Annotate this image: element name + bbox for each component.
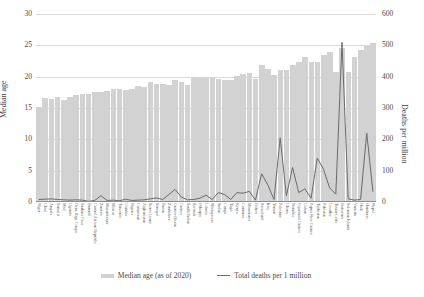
x-axis-label-text: Gabon — [303, 203, 307, 214]
x-axis-label-text: Malawi — [111, 203, 115, 216]
x-axis-label-text: Central African Republic — [93, 203, 97, 244]
x-axis-label-text: Angola — [49, 203, 53, 215]
left-tick-label: 25 — [6, 41, 32, 49]
x-axis-label-text: Congo — [223, 203, 227, 214]
x-axis-label-text: Zambia — [99, 203, 103, 216]
left-tick-label: 10 — [6, 135, 32, 143]
x-axis-label-text: Rwanda — [192, 203, 196, 216]
x-axis-label-text: Dem. Rep. Congo — [74, 203, 78, 233]
right-tick-label: 600 — [382, 10, 412, 18]
left-tick-label: 20 — [6, 73, 32, 81]
x-axis-label-text: Burkina Faso — [80, 203, 84, 225]
right-tick-label: 500 — [382, 41, 412, 49]
x-axis-label-text: Gambia — [124, 203, 128, 216]
x-axis-label-text: Botswana — [340, 203, 344, 219]
x-axis-label-text: Uganda — [68, 203, 72, 216]
legend-item-median-age: Median age (as of 2020) — [101, 271, 191, 280]
right-axis-title: Deaths per million — [400, 104, 409, 164]
legend-label-deaths: Total deaths per 1 million — [234, 271, 311, 280]
x-axis-label-text: Ghana — [285, 203, 289, 214]
x-axis-label-text: Nigeria — [130, 203, 134, 215]
x-axis-label-text: Equatorial Guinea — [297, 203, 301, 233]
x-axis-label-text: Solomon Islands — [346, 203, 350, 230]
right-tick-label: 300 — [382, 104, 412, 112]
x-axis-label-text: Tanzania — [117, 203, 121, 218]
x-axis-label-text: Comoros — [241, 203, 245, 218]
x-axis-label-text: Burundi — [87, 203, 91, 216]
x-axis-label-text: Niger — [37, 203, 41, 212]
x-axis-label-text: Mauritania — [247, 203, 251, 221]
chart-page: Median age Deaths per million 0510152025… — [0, 0, 424, 297]
x-axis-label-text: Eritrea — [254, 203, 258, 214]
right-tick-label: 200 — [382, 135, 412, 143]
x-axis-label-text: Sudan — [216, 203, 220, 213]
left-axis-title: Median age — [0, 80, 8, 118]
x-axis-label-text: Namibia — [291, 203, 295, 217]
x-axis-label-text: Yemen — [272, 203, 276, 214]
bar-swatch-icon — [101, 274, 114, 278]
plot-area — [36, 14, 376, 202]
x-axis-label-text: Togo — [229, 203, 233, 211]
left-tick-label: 0 — [6, 198, 32, 206]
left-tick-label: 15 — [6, 104, 32, 112]
x-axis-label-text: Mali — [62, 203, 66, 211]
x-axis-label-text: Tajikistan — [315, 203, 319, 219]
chart-legend: Median age (as of 2020) Total deaths per… — [36, 271, 376, 280]
x-axis-label-text: Zimbabwe — [167, 203, 171, 221]
x-axis-label-text: Nepal — [371, 203, 375, 213]
right-tick-label: 400 — [382, 73, 412, 81]
x-axis-label-text: Cameroon — [136, 203, 140, 220]
x-axis-label-text: Vanuatu — [353, 203, 357, 216]
legend-label-median-age: Median age (as of 2020) — [118, 271, 191, 280]
x-axis-label: Nepal — [370, 203, 376, 265]
right-tick-label: 0 — [382, 198, 412, 206]
legend-item-deaths: Total deaths per 1 million — [217, 271, 311, 280]
x-axis-label-text: Haiti — [359, 203, 363, 211]
x-axis-label-text: Swaziland — [260, 203, 264, 220]
right-tick-label: 100 — [382, 167, 412, 175]
line-swatch-icon — [217, 275, 230, 276]
x-axis-label-text: Liberia — [204, 203, 208, 215]
x-axis-label-text: Palestine — [278, 203, 282, 218]
x-axis-label-text: Honduras — [365, 203, 369, 219]
x-axis-label-text: Madagascar — [210, 203, 214, 223]
x-axis-label-text: Lesotho — [328, 203, 332, 216]
x-axis-labels: NigerChadAngolaSomaliaMaliUgandaDem. Rep… — [36, 203, 376, 265]
x-axis-label-text: Chad — [43, 203, 47, 212]
x-axis-label-text: Afghanistan — [142, 203, 146, 223]
left-tick-label: 5 — [6, 167, 32, 175]
x-axis-label-text: Iraq — [266, 203, 270, 210]
x-axis-label-text: Kenya — [235, 203, 239, 214]
x-axis-label-text: Pakistan — [322, 203, 326, 217]
x-axis-label-text: Sierra Leone — [148, 203, 152, 224]
x-axis-label-text: Benin — [161, 203, 165, 213]
x-axis-label-text: Ethiopia — [198, 203, 202, 217]
left-tick-label: 30 — [6, 10, 32, 18]
x-axis-label-text: Timor-Leste — [334, 203, 338, 223]
x-axis-label-text: South Sudan — [186, 203, 190, 224]
x-axis-label-text: Mozambique — [105, 203, 109, 225]
x-axis-label-text: Papua New Guinea — [309, 203, 313, 235]
x-axis-label-text: Senegal — [155, 203, 159, 216]
x-axis-label-text: Guinea — [179, 203, 183, 215]
x-axis-label-text: Guinea-Bissau — [173, 203, 177, 227]
line-series — [36, 14, 376, 202]
x-axis-label-text: Somalia — [56, 203, 60, 216]
x-axis-line — [36, 201, 376, 202]
